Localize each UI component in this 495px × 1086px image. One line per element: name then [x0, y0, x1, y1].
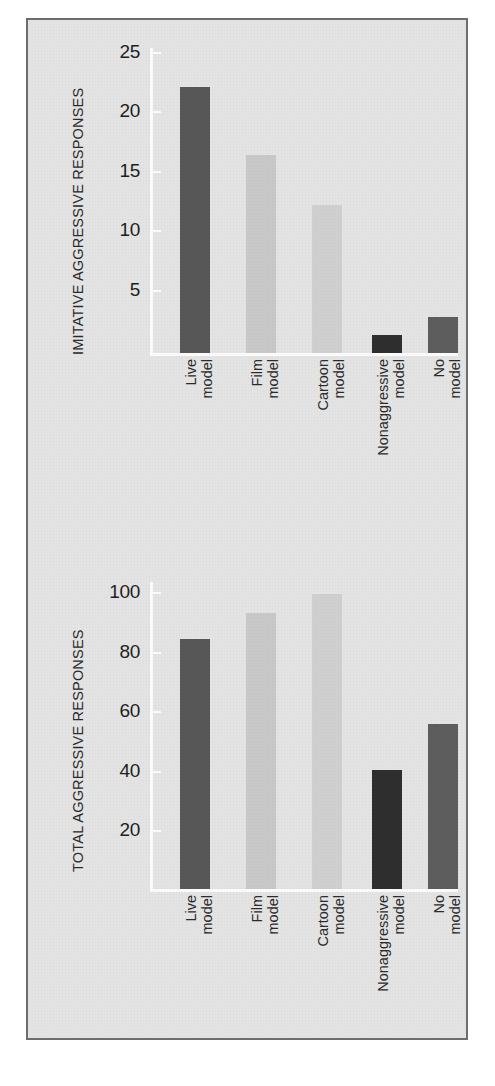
- y-axis-line-total: [150, 582, 153, 892]
- y-axis-line-imitative: [150, 48, 153, 356]
- bar-total-no-model: [428, 724, 458, 889]
- plot-area-total: 20 40 60 80 100: [150, 582, 440, 892]
- y-tick-total-40: 40: [150, 771, 161, 773]
- x-axis-line-imitative: [150, 353, 458, 356]
- x-label-imitative-film: Film model: [250, 359, 281, 399]
- y-axis-title-total: TOTAL AGGRESSIVE RESPONSES: [70, 629, 86, 872]
- bar-imitative-nonaggressive: [372, 335, 402, 353]
- x-label-imitative-live: Live model: [184, 359, 215, 399]
- figure-frame: IMITATIVE AGGRESSIVE RESPONSES 5 10 15 2…: [26, 18, 468, 1040]
- y-tick-imitative-25: 25: [150, 52, 161, 54]
- bar-imitative-no-model: [428, 317, 458, 353]
- x-axis-line-total: [150, 889, 458, 892]
- bar-total-cartoon: [312, 594, 342, 889]
- x-label-total-live: Live model: [184, 895, 215, 935]
- y-tick-total-60: 60: [150, 711, 161, 713]
- x-label-imitative-nonaggressive: Nonaggressive model: [376, 359, 407, 456]
- chart-panel-imitative: IMITATIVE AGGRESSIVE RESPONSES 5 10 15 2…: [28, 20, 468, 520]
- y-tick-total-20: 20: [150, 830, 161, 832]
- x-label-imitative-cartoon: Cartoon model: [316, 359, 347, 411]
- x-label-total-film: Film model: [250, 895, 281, 935]
- x-label-total-nonaggressive: Nonaggressive model: [376, 895, 407, 992]
- bar-total-nonaggressive: [372, 770, 402, 889]
- bar-total-film: [246, 613, 276, 889]
- y-tick-total-80: 80: [150, 652, 161, 654]
- y-tick-imitative-15: 15: [150, 171, 161, 173]
- chart-panel-total: TOTAL AGGRESSIVE RESPONSES 20 40 60 80 1…: [28, 532, 468, 1040]
- x-label-total-cartoon: Cartoon model: [316, 895, 347, 947]
- y-axis-title-imitative: IMITATIVE AGGRESSIVE RESPONSES: [70, 88, 86, 355]
- bar-imitative-live: [180, 87, 210, 353]
- plot-area-imitative: 5 10 15 20 25: [150, 48, 440, 356]
- x-label-total-no-model: No model: [432, 895, 463, 935]
- y-tick-total-100: 100: [150, 592, 161, 594]
- y-tick-imitative-5: 5: [150, 290, 161, 292]
- bar-imitative-cartoon: [312, 205, 342, 353]
- y-tick-imitative-10: 10: [150, 230, 161, 232]
- x-category-labels-imitative: Live model Film model Cartoon model Nona…: [150, 359, 440, 509]
- y-tick-imitative-20: 20: [150, 111, 161, 113]
- bar-imitative-film: [246, 155, 276, 353]
- x-category-labels-total: Live model Film model Cartoon model Nona…: [150, 895, 440, 1040]
- bar-total-live: [180, 639, 210, 889]
- x-label-imitative-no-model: No model: [432, 359, 463, 399]
